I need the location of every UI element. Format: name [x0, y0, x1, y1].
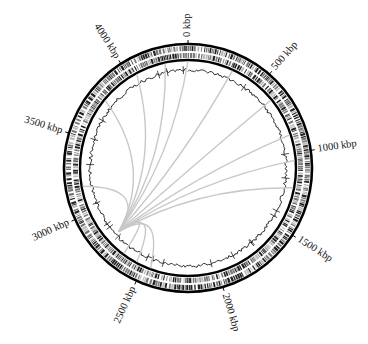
reverse-strand-feature — [298, 161, 303, 162]
reverse-strand-feature — [73, 176, 78, 178]
reverse-strand-feature — [74, 154, 79, 156]
forward-strand-feature — [305, 171, 310, 172]
forward-strand-feature — [305, 175, 310, 177]
synteny-link — [119, 100, 271, 231]
forward-strand-feature — [179, 46, 181, 51]
forward-strand-feature — [88, 97, 93, 102]
forward-strand-feature — [77, 115, 82, 119]
forward-strand-feature — [189, 285, 191, 290]
forward-strand-feature — [66, 172, 71, 174]
reverse-strand-feature — [170, 277, 172, 282]
reverse-strand-feature — [280, 228, 285, 231]
reverse-strand-feature — [297, 154, 302, 155]
synteny-links — [83, 61, 295, 268]
forward-strand-feature — [182, 285, 184, 290]
forward-strand-feature — [201, 47, 203, 52]
reverse-strand-feature — [222, 59, 224, 64]
forward-strand-feature — [75, 121, 80, 125]
reverse-strand-feature — [297, 184, 302, 186]
forward-strand-feature — [169, 284, 171, 289]
forward-strand-feature — [178, 285, 181, 290]
reverse-strand-feature — [297, 180, 302, 182]
forward-strand-feature — [186, 285, 188, 290]
forward-strand-feature — [66, 167, 71, 169]
forward-strand-feature — [66, 178, 71, 180]
reverse-strand-feature — [295, 143, 300, 146]
reverse-strand-feature — [77, 195, 82, 197]
reverse-strand-feature — [244, 69, 247, 74]
forward-strand-feature — [192, 46, 194, 51]
forward-strand-feature — [305, 169, 310, 171]
forward-strand-feature — [207, 283, 209, 288]
gc-spike — [270, 214, 277, 218]
forward-strand-feature — [304, 155, 309, 158]
reverse-strand-feature — [172, 54, 175, 59]
forward-strand-feature — [182, 46, 184, 51]
forward-strand-feature — [68, 186, 73, 189]
forward-strand-feature — [174, 284, 177, 289]
reverse-strand-feature — [74, 149, 79, 151]
reverse-strand-feature — [73, 174, 78, 175]
reverse-strand-feature — [177, 53, 179, 58]
forward-strand-feature — [194, 285, 196, 290]
reverse-strand-feature — [189, 278, 191, 283]
forward-strand-feature — [214, 49, 217, 54]
reverse-strand-feature — [73, 160, 78, 161]
gc-spike — [107, 225, 113, 230]
forward-strand-feature — [181, 285, 182, 290]
reverse-strand-feature — [76, 193, 81, 195]
reverse-strand-feature — [179, 278, 181, 283]
reverse-strand-feature — [288, 120, 293, 124]
reverse-strand-feature — [166, 276, 168, 281]
forward-strand-feature — [206, 47, 208, 52]
gc-spike — [281, 154, 289, 155]
reverse-strand-feature — [195, 53, 197, 58]
synteny-link — [119, 63, 166, 231]
forward-strand-feature — [171, 47, 173, 52]
forward-strand-feature — [304, 181, 309, 183]
reverse-strand-feature — [206, 276, 209, 281]
reverse-strand-feature — [228, 61, 231, 66]
reverse-strand-feature — [208, 55, 210, 60]
scale-label: 1500 kbp — [296, 233, 335, 264]
outer-ring — [64, 44, 312, 292]
forward-strand-feature — [200, 284, 202, 289]
forward-strand-feature — [67, 148, 72, 150]
reverse-strand-feature — [296, 148, 301, 150]
reverse-strand-feature — [183, 53, 185, 58]
forward-strand-feature — [217, 50, 219, 55]
forward-strand-feature — [171, 284, 174, 289]
forward-strand-feature — [133, 58, 137, 63]
reverse-strand-feature — [297, 156, 302, 158]
forward-strand-feature — [70, 198, 75, 200]
forward-strand-feature — [194, 46, 196, 51]
forward-strand-feature — [69, 193, 74, 196]
scale-label: 4000 kbp — [92, 21, 123, 60]
reverse-strand-feature — [197, 277, 199, 282]
forward-strand-feature — [66, 163, 71, 165]
forward-strand-feature — [71, 130, 76, 134]
forward-strand-feature — [158, 49, 161, 54]
reverse-strand-feature — [185, 278, 187, 283]
forward-strand-feature — [216, 281, 219, 286]
forward-strand-feature — [69, 196, 74, 198]
reverse-strand-feature — [75, 191, 80, 193]
forward-strand-feature — [305, 166, 310, 168]
forward-strand-feature — [204, 284, 206, 289]
forward-strand-feature — [167, 48, 169, 53]
forward-strand-feature — [68, 147, 73, 149]
forward-strand-feature — [67, 184, 72, 186]
forward-strand-feature — [304, 149, 309, 151]
forward-strand-feature — [268, 252, 273, 257]
forward-strand-feature — [159, 282, 162, 287]
forward-strand-feature — [66, 158, 71, 160]
reverse-strand-feature — [201, 54, 203, 59]
forward-strand-feature — [304, 184, 309, 185]
forward-strand-feature — [303, 145, 308, 148]
reverse-strand-feature — [73, 164, 78, 166]
forward-strand-feature — [305, 163, 310, 165]
scale-label: 3500 kbp — [23, 114, 64, 136]
scale-label: 0 kbp — [181, 13, 192, 37]
scale-tick — [311, 150, 315, 151]
reverse-strand-feature — [185, 53, 187, 58]
